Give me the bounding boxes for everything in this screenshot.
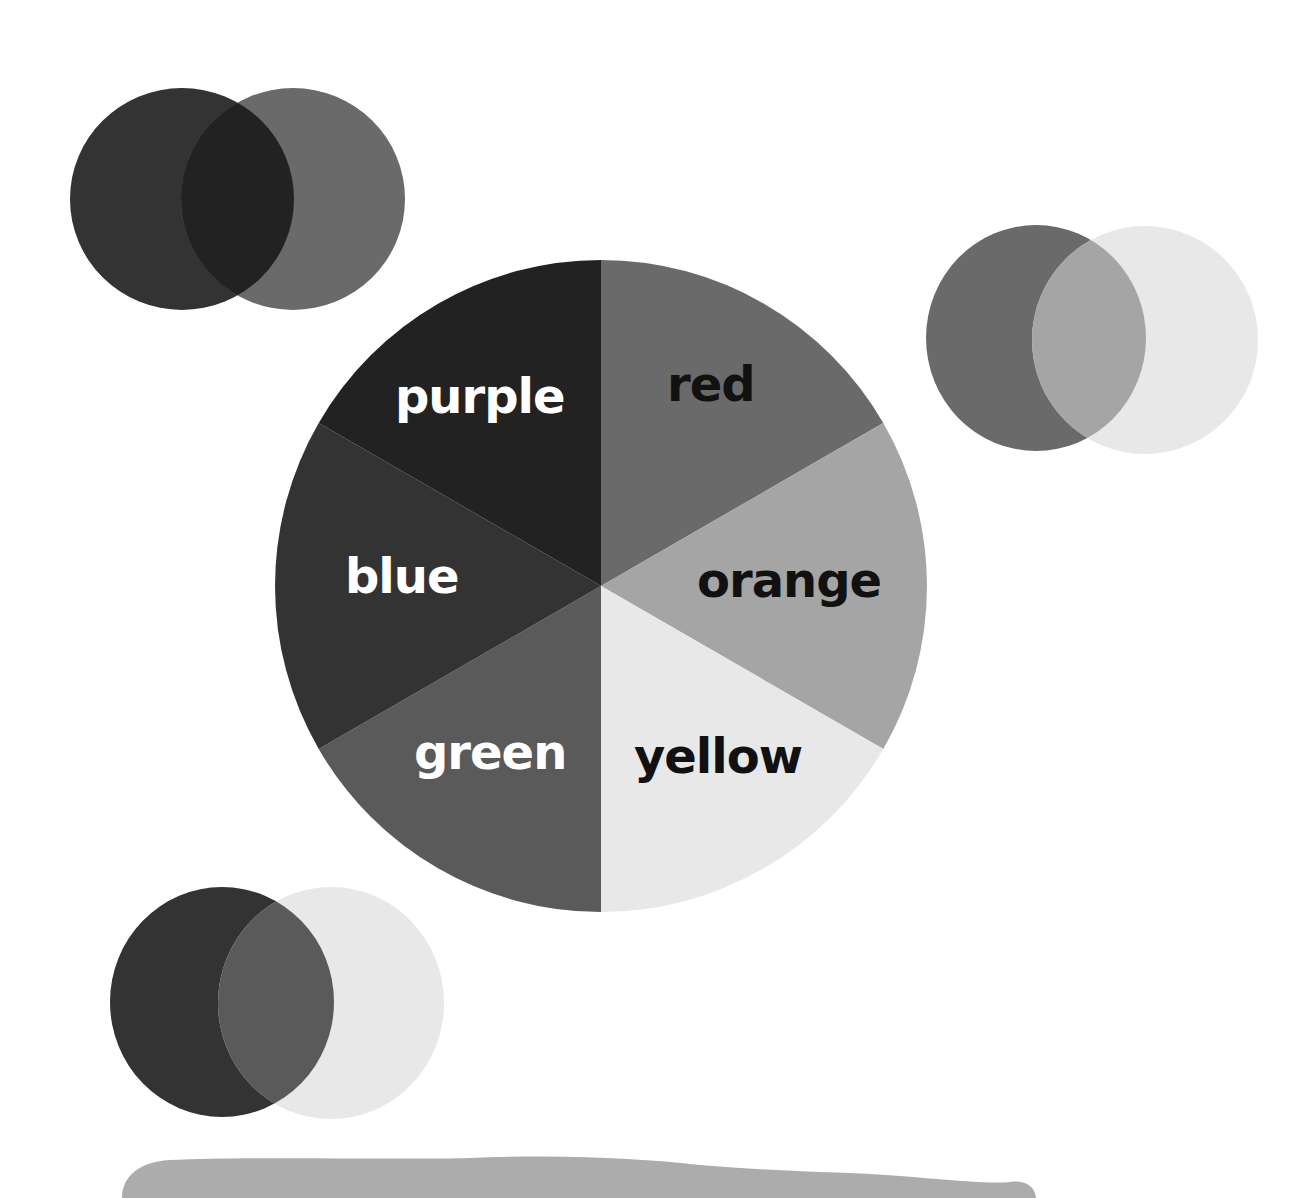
wheel-label-orange: orange	[697, 556, 881, 604]
wheel-label-yellow: yellow	[634, 732, 802, 780]
diagram-canvas	[0, 0, 1307, 1198]
venn-red-yellow	[926, 225, 1258, 454]
venn-blue-yellow	[110, 887, 444, 1119]
venn-blue-red	[70, 88, 405, 310]
wheel-label-red: red	[667, 360, 755, 408]
wheel-label-purple: purple	[395, 372, 565, 420]
wheel-label-green: green	[414, 728, 566, 776]
color-wheel-diagram: purple red blue orange green yellow	[0, 0, 1307, 1198]
wheel-label-blue: blue	[345, 552, 459, 600]
bottom-banner	[122, 1156, 1036, 1198]
